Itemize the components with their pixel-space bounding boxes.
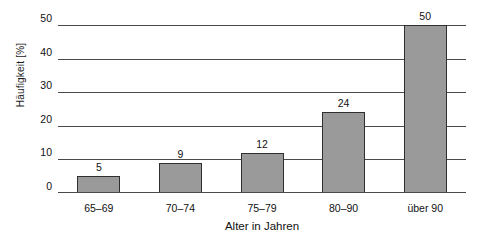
bar-value-label: 50: [395, 10, 455, 22]
bar-value-label: 24: [314, 97, 374, 109]
y-tick-label: 10: [30, 146, 52, 158]
y-tick-label: 30: [30, 79, 52, 91]
x-tick-label: 65–69: [59, 202, 139, 215]
bar: [404, 25, 447, 193]
bar: [322, 112, 365, 193]
bar-value-label: 5: [69, 161, 129, 173]
y-tick-label: 40: [30, 46, 52, 58]
x-tick-label: 70–74: [140, 202, 220, 215]
bar: [241, 153, 284, 193]
bar: [159, 163, 202, 193]
bar-value-label: 9: [150, 148, 210, 160]
x-axis-line: [58, 192, 466, 193]
x-tick-label: über 90: [385, 202, 465, 215]
bar-value-label: 12: [232, 138, 292, 150]
bar: [77, 176, 120, 193]
x-axis-title: Alter in Jahren: [58, 220, 466, 232]
y-axis-title: Häufigkeit [%]: [14, 0, 28, 175]
bar-chart: Häufigkeit [%] 01020304050 59122450 65–6…: [0, 0, 486, 245]
x-tick-label: 75–79: [222, 202, 302, 215]
x-tick-label: 80–90: [304, 202, 384, 215]
y-tick-label: 20: [30, 113, 52, 125]
y-tick-label: 0: [30, 180, 52, 192]
y-tick-label: 50: [30, 12, 52, 24]
